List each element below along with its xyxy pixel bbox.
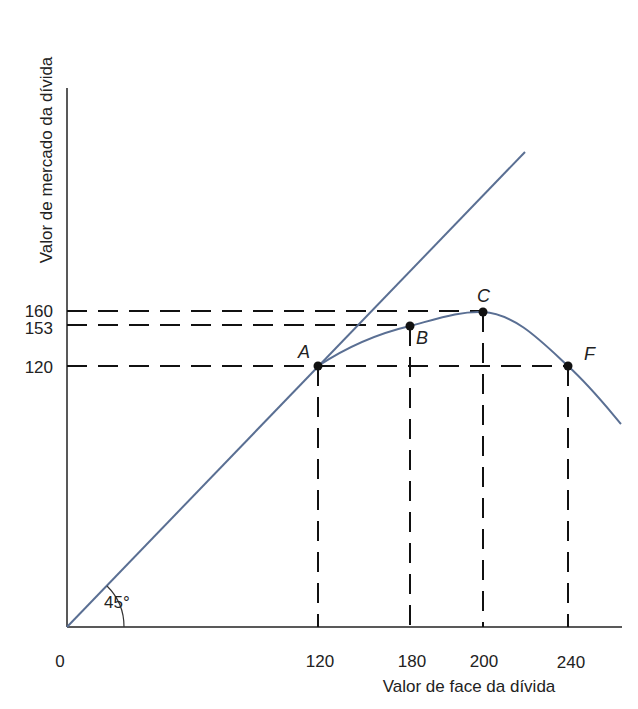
point-label-b: B	[416, 328, 428, 348]
point-label-f: F	[584, 344, 596, 364]
point-c	[479, 308, 488, 317]
point-b	[406, 322, 415, 331]
x-tick-0: 0	[55, 652, 64, 671]
diagonal-45-line	[67, 152, 525, 627]
point-label-c: C	[477, 286, 491, 306]
y-axis-title: Valor de mercado da dívida	[37, 56, 56, 263]
y-tick-120: 120	[25, 358, 53, 377]
horizontal-guides	[67, 311, 568, 366]
point-label-a: A	[297, 342, 310, 362]
x-tick-240: 240	[557, 653, 585, 672]
point-a	[314, 362, 323, 371]
vertical-guides	[318, 312, 568, 627]
y-tick-153: 153	[25, 319, 53, 338]
x-axis-title: Valor de face da dívida	[383, 677, 556, 696]
x-tick-120: 120	[306, 652, 334, 671]
angle-label: 45°	[104, 593, 130, 612]
market-value-curve	[318, 312, 621, 424]
chart: A B C F 160 153 120 0 120 180 200 240 45…	[0, 0, 638, 709]
point-f	[564, 362, 573, 371]
x-tick-200: 200	[470, 652, 498, 671]
x-tick-180: 180	[398, 652, 426, 671]
